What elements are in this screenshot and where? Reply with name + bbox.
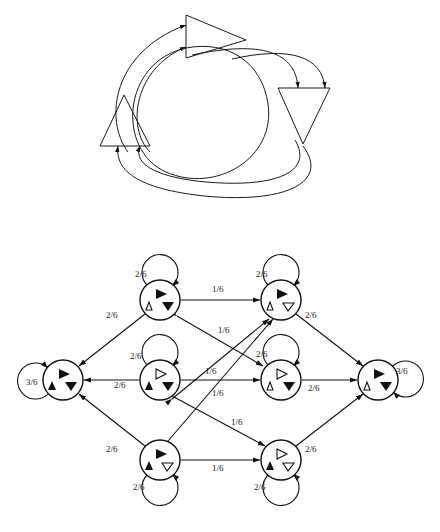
edge-bottom-left-left xyxy=(79,394,145,446)
edge-label: 2/6 xyxy=(106,444,118,454)
self-loop-label: 2/6 xyxy=(256,349,268,359)
self-loop-label: 2/6 xyxy=(256,269,268,279)
edge-label: 2/6 xyxy=(114,380,126,390)
node-bottom-left[interactable] xyxy=(140,440,180,480)
edge-label: 2/6 xyxy=(308,383,320,393)
edge-label: 1/6 xyxy=(212,284,224,294)
node-center-right[interactable] xyxy=(261,360,301,400)
edge-label: 2/6 xyxy=(305,444,317,454)
edge-label: 1/6 xyxy=(212,463,224,473)
self-loop-label: 2/6 xyxy=(133,482,145,492)
top-diagram xyxy=(100,15,330,198)
arc-left-to-top-outer xyxy=(116,25,186,152)
arc-right-to-left-outer xyxy=(118,146,311,198)
edge-label: 2/6 xyxy=(305,310,317,320)
node-top-right[interactable] xyxy=(261,280,301,320)
edge-top-right-right xyxy=(296,314,363,366)
edge-label: 1/6 xyxy=(231,417,243,427)
self-loop-label: 3/6 xyxy=(26,377,38,387)
arc-top-to-right-outer xyxy=(232,53,325,88)
edge-label: 2/6 xyxy=(106,310,118,320)
node-bottom-right[interactable] xyxy=(261,440,301,480)
arc-left-to-top-inner xyxy=(137,47,186,152)
edge-center-left-bottom-right xyxy=(174,397,265,446)
edge-bottom-right-right xyxy=(296,394,363,446)
self-loop-label: 3/6 xyxy=(396,366,408,376)
triangle-down-shape xyxy=(278,88,330,144)
node-left[interactable] xyxy=(43,360,83,400)
arc-top-to-right-inner xyxy=(192,49,298,88)
arc-loop-big xyxy=(133,46,269,178)
node-top-left[interactable] xyxy=(140,280,180,320)
self-loop-label: 2/6 xyxy=(130,351,142,361)
self-loop-label: 2/6 xyxy=(254,482,266,492)
triangle-right-shape xyxy=(186,15,246,58)
self-loop-label: 2/6 xyxy=(135,269,147,279)
edge-label: 1/6 xyxy=(218,325,230,335)
node-right[interactable] xyxy=(358,360,398,400)
arc-right-to-left-inner xyxy=(139,140,300,183)
edge-top-left-center-right xyxy=(177,316,263,366)
node-center-left[interactable] xyxy=(140,360,180,400)
edge-label: 1/6 xyxy=(212,388,224,398)
triangle-up-shape xyxy=(100,95,150,146)
figure-canvas: 1/6 1/6 1/6 2/6 2/6 2/6 2/6 2/6 2/6 1/6 … xyxy=(0,0,440,532)
top-diagram-arcs xyxy=(116,25,325,198)
state-transition-graph: 1/6 1/6 1/6 2/6 2/6 2/6 2/6 2/6 2/6 1/6 … xyxy=(18,255,424,506)
edge-label: 1/6 xyxy=(205,366,217,376)
